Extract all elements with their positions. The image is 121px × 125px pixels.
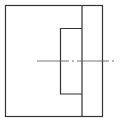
technical-drawing <box>0 0 121 125</box>
